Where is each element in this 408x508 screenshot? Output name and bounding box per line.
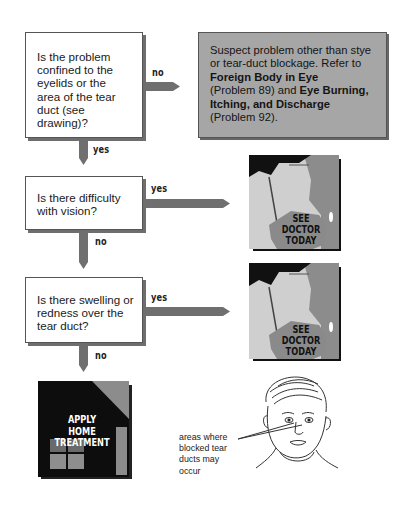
arrow-right-yes-2 [145,197,235,211]
branch-1-yes-label: yes [93,144,109,155]
referral-link-foreign-body: Foreign Body in Eye [210,71,318,83]
see-doctor-today-image-1: SEE DOCTOR TODAY [249,155,341,251]
arrow-down-no-3 [78,346,90,374]
branch-3-no-label: no [95,350,107,361]
see-doctor-today-image-2: SEE DOCTOR TODAY [249,263,341,361]
branch-1-no-label: no [152,67,164,78]
referral-link-itching: Itching, and Discharge [210,98,330,110]
question-box-1: Is the problem confined to the eyelids o… [25,32,143,138]
branch-2-no-label: no [95,236,107,247]
home-treatment-label: APPLY HOME TREATMENT [51,414,113,449]
referral-box: Suspect problem other than stye or tear-… [198,32,387,138]
doctor-1-label: SEE DOCTOR TODAY [278,213,325,246]
question-box-3: Is there swelling or redness over the te… [25,277,143,343]
arrow-down-yes-1 [78,141,90,167]
doctor-2-label: SEE DOCTOR TODAY [278,324,325,357]
question-3-text: Is there swelling or redness over the te… [37,293,134,333]
branch-3-yes-label: yes [151,292,167,303]
branch-2-yes-label: yes [151,183,167,194]
question-2-text: Is there difficulty with vision? [37,191,121,217]
child-face-illustration-icon [238,372,342,480]
question-1-text: Is the problem confined to the eyelids o… [37,50,116,129]
illustration-caption: areas where blocked tear ducts may occur [179,432,227,477]
arrow-right-no-1 [145,80,185,94]
question-box-2: Is there difficulty with vision? [25,176,143,230]
arrow-down-no-2 [78,232,90,272]
arrow-right-yes-3 [145,305,235,319]
apply-home-treatment-image: APPLY HOME TREATMENT [38,381,132,479]
referral-link-eye-burning: Eye Burning, [300,84,369,96]
referral-text: Suspect problem other than stye or tear-… [210,44,378,124]
